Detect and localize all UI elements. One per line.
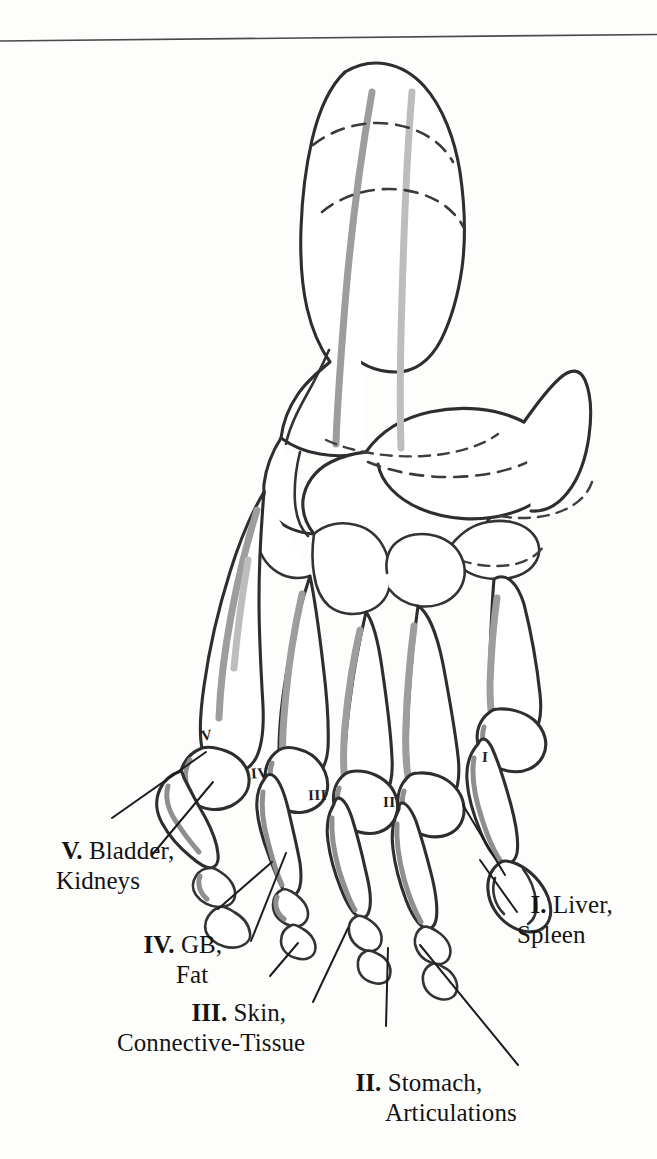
label-stomach-articulations: II. Stomach,Articulations [330, 1038, 517, 1159]
label-ii-line1: Stomach, [381, 1069, 482, 1096]
digit-numeral-iii: III [308, 787, 328, 805]
label-i-line1: Liver, [547, 891, 613, 918]
digit-numeral-i: I [482, 749, 489, 766]
label-iii-line1: Skin, [227, 999, 286, 1026]
digit-numeral-v: V [200, 726, 214, 744]
label-v-numeral: V. [61, 837, 82, 864]
label-ii-numeral: II. [355, 1069, 381, 1096]
label-i-line2: Spleen [505, 920, 613, 950]
label-ii-line2: Articulations [330, 1098, 517, 1128]
label-v-line1: Bladder, [83, 837, 175, 864]
digit-numeral-iv: IV [250, 764, 269, 782]
page-canvas: .ink { fill:none; stroke:#2e2e2e; stroke… [0, 0, 657, 1159]
label-iv-line1: GB, [175, 931, 223, 958]
digit-numeral-ii: II [383, 794, 396, 811]
label-v-line2: Kidneys [36, 866, 174, 896]
label-iv-numeral: IV. [143, 931, 174, 958]
label-iii-line2: Connective-Tissue [117, 1028, 305, 1058]
label-skin-connective-tissue: III. Skin,Connective-Tissue [166, 968, 305, 1118]
label-liver-spleen: I. Liver,Spleen [505, 860, 613, 1010]
label-iii-numeral: III. [191, 999, 227, 1026]
label-i-numeral: I. [530, 891, 546, 918]
